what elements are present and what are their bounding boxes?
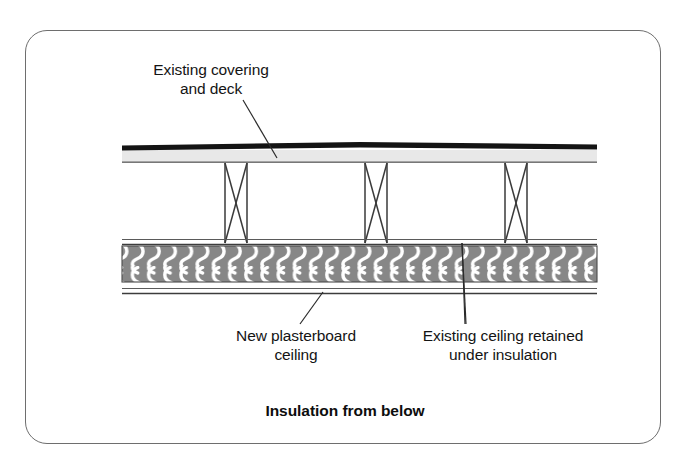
leader-covering-deck [243, 100, 277, 158]
joist-1 [225, 163, 247, 243]
insulation-band [122, 246, 597, 282]
joist-group [225, 163, 527, 243]
deck-assembly [122, 142, 597, 162]
leader-lines [243, 100, 466, 324]
leader-new-plasterboard-ceiling [300, 292, 323, 324]
label-new-plasterboard-ceiling: New plasterboard ceiling [196, 326, 396, 364]
existing-deck-band [122, 150, 597, 161]
existing-covering-band [122, 142, 597, 151]
label-existing-covering-and-deck: Existing covering and deck [126, 60, 296, 98]
figure-caption: Insulation from below [150, 402, 540, 420]
joist-3 [505, 163, 527, 243]
label-existing-ceiling-retained: Existing ceiling retained under insulati… [398, 326, 608, 364]
figure-root: Existing covering and deck New plasterbo… [0, 0, 695, 474]
joist-2 [365, 163, 387, 243]
ceiling-assembly [122, 240, 597, 294]
